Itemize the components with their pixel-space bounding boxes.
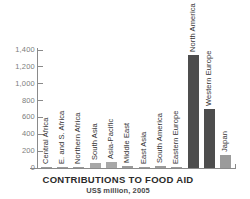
y-axis-tick-label: 0 — [31, 163, 35, 173]
chart-subtitle: US$ million, 2005 — [0, 186, 236, 195]
chart-title: CONTRIBUTIONS TO FOOD AID — [0, 174, 236, 185]
category-label: Middle East — [123, 123, 131, 163]
category-label: South America — [156, 113, 164, 163]
category-label: Japan — [221, 131, 229, 152]
category-label: Eastern Europe — [172, 110, 180, 164]
category-label: South Asia — [91, 124, 99, 161]
x-axis-baseline — [30, 168, 236, 169]
x-axis-end-tick — [235, 164, 236, 169]
category-label: E. and S. Africa — [58, 110, 66, 163]
y-axis-tick-label: 800 — [22, 96, 35, 106]
y-axis-tick-label: 200 — [22, 146, 35, 156]
category-label: Central Africa — [42, 117, 50, 163]
y-axis-tick-label: 1,200 — [15, 62, 35, 72]
category-label: Asia-Pacific — [107, 118, 115, 158]
category-label: Northern Africa — [74, 112, 82, 164]
y-axis-tick-label: 1,400 — [15, 45, 35, 55]
y-axis-tick-label: 1,000 — [15, 79, 35, 89]
chart-container: 02004006008001,0001,2001,400 Central Afr… — [0, 0, 250, 199]
category-label: North America — [189, 3, 197, 52]
category-labels-layer: Central AfricaE. and S. AfricaNorthern A… — [38, 0, 235, 168]
category-label: East Asia — [140, 131, 148, 163]
y-axis-tick-label: 600 — [22, 112, 35, 122]
y-axis-tick-label: 400 — [22, 129, 35, 139]
category-label: Western Europe — [205, 51, 213, 106]
